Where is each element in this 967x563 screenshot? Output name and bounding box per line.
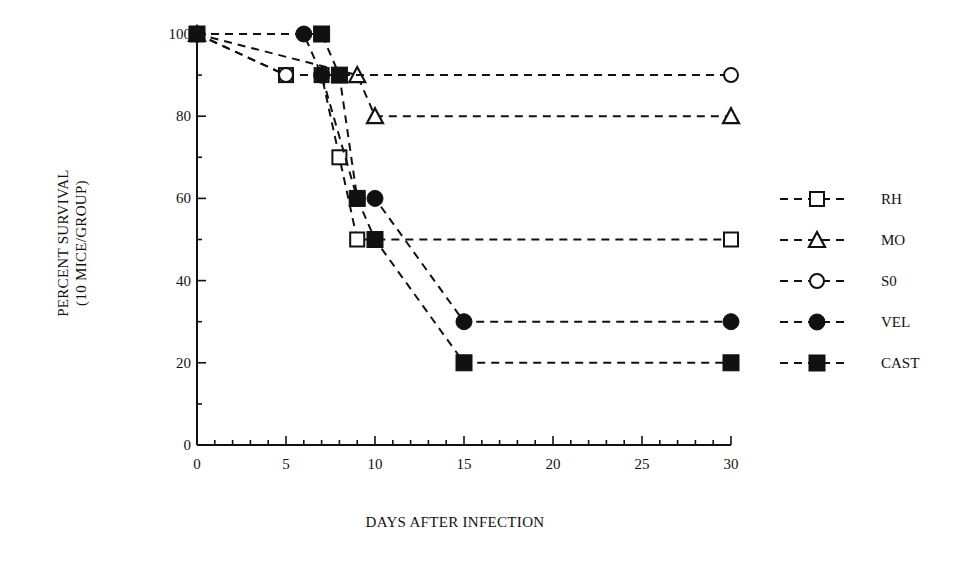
x-axis-title: DAYS AFTER INFECTION: [366, 514, 545, 530]
circle-filled-icon: [809, 314, 825, 330]
data-point-marker: [456, 355, 472, 371]
data-point-marker: [349, 190, 365, 206]
y-tick-label: 60: [176, 190, 191, 206]
data-point-marker: [723, 355, 739, 371]
series-line: [197, 34, 731, 322]
series-s0: [190, 27, 738, 82]
x-tick-label: 10: [368, 456, 383, 472]
legend-label: S0: [881, 273, 897, 289]
x-tick-label: 20: [546, 456, 561, 472]
data-point-marker: [350, 233, 364, 247]
series-line: [197, 34, 731, 75]
legend-item-s0: S0: [780, 273, 897, 289]
y-tick-label: 0: [184, 437, 192, 453]
data-point-marker: [367, 190, 383, 206]
square-open-icon: [810, 192, 824, 206]
legend-label: VEL: [881, 314, 910, 330]
legend-label: MO: [881, 232, 905, 248]
x-tick-label: 15: [457, 456, 472, 472]
legend-item-cast: CAST: [780, 355, 919, 371]
legend: RHMOS0VELCAST: [780, 191, 919, 371]
data-point-marker: [279, 68, 293, 82]
y-axis-title: PERCENT SURVIVAL: [55, 169, 71, 317]
series-line: [197, 34, 731, 240]
data-point-marker: [189, 26, 205, 42]
legend-item-rh: RH: [780, 191, 902, 207]
legend-item-vel: VEL: [780, 314, 910, 330]
data-point-marker: [331, 67, 347, 83]
x-tick-label: 5: [282, 456, 290, 472]
x-tick-label: 25: [635, 456, 650, 472]
axes: 051015202530020406080100: [169, 26, 739, 472]
data-point-marker: [367, 232, 383, 248]
x-tick-label: 30: [724, 456, 739, 472]
data-point-marker: [724, 68, 738, 82]
square-filled-icon: [809, 355, 825, 371]
y-tick-label: 20: [176, 355, 191, 371]
data-point-marker: [314, 26, 330, 42]
series-vel: [189, 26, 739, 330]
y-axis-subtitle: (10 MICE/GROUP): [73, 180, 90, 306]
survival-chart: 051015202530020406080100 RHMOS0VELCAST D…: [0, 0, 967, 563]
data-point-marker: [456, 314, 472, 330]
y-tick-label: 100: [169, 26, 192, 42]
legend-label: CAST: [881, 355, 919, 371]
series-rh: [190, 27, 738, 247]
circle-open-icon: [810, 274, 824, 288]
x-tick-label: 0: [193, 456, 201, 472]
y-tick-label: 40: [176, 273, 191, 289]
legend-item-mo: MO: [780, 232, 905, 248]
data-point-marker: [724, 233, 738, 247]
data-point-marker: [314, 67, 330, 83]
legend-label: RH: [881, 191, 902, 207]
data-point-marker: [723, 314, 739, 330]
series-group: [189, 26, 739, 371]
data-point-marker: [332, 150, 346, 164]
y-tick-label: 80: [176, 108, 191, 124]
